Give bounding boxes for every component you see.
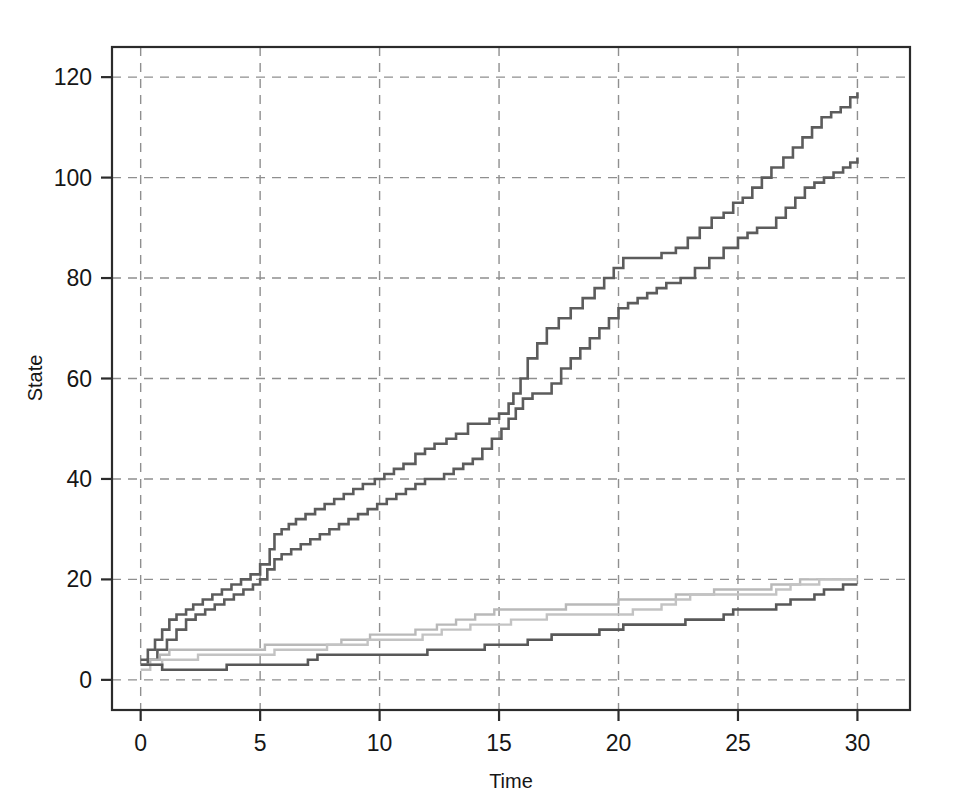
y-axis-ticks: 020406080100120	[54, 64, 112, 693]
line-chart: 051015202530 020406080100120 Time State	[0, 0, 958, 809]
y-tick-label: 0	[79, 667, 92, 693]
x-axis-title: Time	[489, 770, 533, 792]
y-tick-label: 100	[54, 165, 92, 191]
x-tick-label: 10	[367, 730, 393, 756]
y-tick-label: 80	[66, 265, 92, 291]
x-tick-label: 5	[254, 730, 267, 756]
x-tick-label: 20	[606, 730, 632, 756]
x-tick-label: 25	[725, 730, 751, 756]
y-tick-label: 40	[66, 466, 92, 492]
y-tick-label: 120	[54, 64, 92, 90]
chart-figure: 051015202530 020406080100120 Time State	[0, 0, 958, 809]
x-tick-label: 0	[134, 730, 147, 756]
y-tick-label: 20	[66, 566, 92, 592]
x-axis-ticks: 051015202530	[134, 710, 870, 756]
y-tick-label: 60	[66, 366, 92, 392]
x-tick-label: 30	[845, 730, 871, 756]
x-tick-label: 15	[486, 730, 512, 756]
y-axis-title: State	[24, 355, 46, 402]
